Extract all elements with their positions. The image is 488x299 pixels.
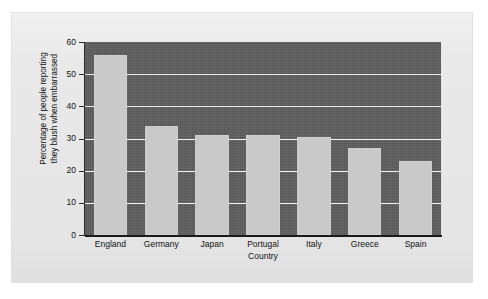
y-axis-title-line-1: Percentage of people reporting xyxy=(39,29,50,189)
y-tick-mark-0 xyxy=(79,235,85,236)
y-tick-label-30: 30 xyxy=(67,134,76,143)
bars-layer xyxy=(85,42,441,235)
bar-greece xyxy=(348,148,382,235)
y-axis-title-line-2: they blush when embarrassed xyxy=(49,29,60,189)
y-tick-label-50: 50 xyxy=(67,70,76,79)
bar-italy xyxy=(297,137,331,235)
y-tick-label-10: 10 xyxy=(67,198,76,207)
y-axis-title: Percentage of people reporting they blus… xyxy=(39,29,60,189)
y-tick-mark-10 xyxy=(79,203,85,204)
bar-chart: 0102030405060 EnglandGermanyJapanPortuga… xyxy=(0,0,488,299)
bar-japan xyxy=(195,135,229,235)
bar-germany xyxy=(145,126,179,235)
y-tick-mark-40 xyxy=(79,106,85,107)
bar-england xyxy=(94,55,128,235)
y-tick-mark-30 xyxy=(79,139,85,140)
y-tick-mark-50 xyxy=(79,74,85,75)
y-tick-mark-60 xyxy=(79,42,85,43)
x-axis-title: Country xyxy=(203,251,323,261)
x-tick-label-spain: Spain xyxy=(382,239,450,249)
y-tick-mark-20 xyxy=(79,171,85,172)
bar-portugal xyxy=(246,135,280,235)
bar-spain xyxy=(399,161,433,235)
y-tick-label-0: 0 xyxy=(71,231,76,240)
y-tick-label-20: 20 xyxy=(67,166,76,175)
y-tick-label-60: 60 xyxy=(67,38,76,47)
plot-area xyxy=(85,42,441,235)
x-axis-line xyxy=(85,235,442,237)
y-tick-label-40: 40 xyxy=(67,102,76,111)
